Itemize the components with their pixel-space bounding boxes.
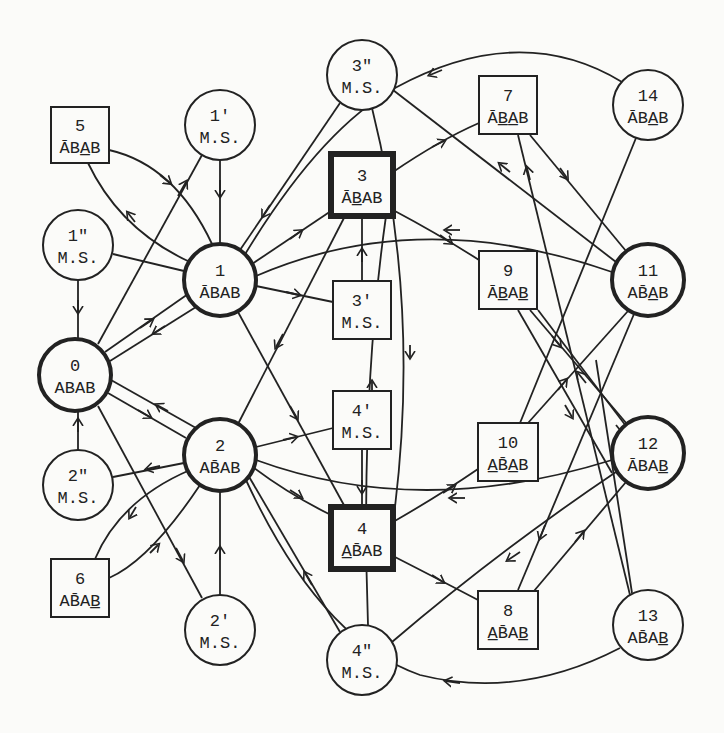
state-node-11: 11AB̄A̲B — [612, 244, 684, 316]
edge-14-3pp — [244, 52, 622, 256]
arrowhead-icon — [432, 575, 443, 582]
edge-11-1 — [256, 239, 612, 276]
node-state-label: ĀBA̲B — [628, 109, 669, 128]
node-state-label: ĀBAB̲ — [628, 457, 669, 476]
node-layer: 0ABAB1ĀBAB2AB̄AB1'M.S.1"M.S.2'M.S.2"M.S.… — [39, 40, 684, 695]
arrowhead-icon — [290, 406, 297, 418]
node-number-label: 13 — [638, 607, 658, 626]
arrowhead-icon — [500, 164, 510, 172]
node-number-label: 4' — [352, 402, 372, 421]
node-number-label: 4 — [357, 520, 367, 539]
node-number-label: 2 — [215, 437, 225, 456]
state-node-3pp: 3"M.S. — [327, 40, 397, 110]
node-number-label: 9 — [503, 262, 513, 281]
edge-0-2p — [98, 406, 202, 598]
state-node-7: 7ĀB̲A̲B — [479, 76, 537, 134]
node-state-label: ĀBA̲B — [60, 139, 101, 158]
state-node-1pp: 1"M.S. — [43, 210, 113, 280]
node-state-label: ABAB — [55, 379, 96, 398]
node-state-label: A̲B̄AB̲ — [488, 624, 529, 643]
node-state-label: M.S. — [200, 634, 241, 653]
edge-3-9 — [393, 210, 479, 260]
node-state-label: AB̄AB̲ — [60, 592, 101, 611]
node-number-label: 1" — [68, 227, 88, 246]
state-node-13: 13AB̄AB̲ — [613, 590, 683, 660]
state-node-4p: 4'M.S. — [333, 391, 391, 449]
edge-1-1pp — [113, 254, 184, 271]
node-number-label: 1' — [210, 107, 230, 126]
state-node-2pp: 2"M.S. — [43, 450, 113, 520]
state-node-4: 4A̲B̄AB — [331, 507, 393, 569]
node-number-label: 1 — [215, 262, 225, 281]
edge-13-2 — [246, 480, 620, 683]
state-node-0: 0ABAB — [39, 339, 111, 411]
state-node-14: 14ĀBA̲B — [613, 70, 683, 140]
arrowhead-icon — [160, 175, 170, 183]
node-number-label: 5 — [75, 117, 85, 136]
arrowhead-icon — [540, 525, 545, 538]
edge-2-2pp — [113, 463, 184, 477]
state-node-3p: 3'M.S. — [333, 281, 391, 339]
node-state-label: A̲B̄AB — [342, 542, 383, 561]
state-diagram-svg: 0ABAB1ĀBAB2AB̄AB1'M.S.1"M.S.2'M.S.2"M.S.… — [0, 0, 724, 733]
node-state-label: ĀB̲AB̲ — [488, 284, 529, 303]
node-number-label: 8 — [503, 602, 513, 621]
node-state-label: ĀB̲A̲B — [488, 109, 529, 128]
edge-4-10 — [393, 469, 478, 522]
arrowhead-icon — [263, 205, 270, 216]
node-state-label: M.S. — [200, 129, 241, 148]
state-node-10: 10A̲B̄A̲B — [478, 423, 538, 481]
node-number-label: 10 — [498, 434, 518, 453]
node-state-label: A̲B̄A̲B — [488, 456, 529, 475]
arrowhead-icon — [508, 552, 520, 560]
state-node-8: 8A̲B̄AB̲ — [478, 591, 538, 649]
node-state-label: M.S. — [342, 424, 383, 443]
node-state-label: AB̄AB — [200, 459, 241, 478]
arrowhead-icon — [575, 532, 583, 542]
node-number-label: 14 — [638, 87, 658, 106]
arrowhead-icon — [176, 548, 183, 561]
node-state-label: M.S. — [342, 79, 383, 98]
arrowhead-icon — [138, 410, 150, 417]
state-node-4pp: 4"M.S. — [327, 625, 397, 695]
arrowhead-icon — [290, 231, 301, 239]
node-state-label: M.S. — [58, 249, 99, 268]
arrowhead-icon — [432, 141, 444, 147]
node-state-label: M.S. — [58, 489, 99, 508]
node-state-label: M.S. — [342, 664, 383, 683]
node-number-label: 6 — [75, 570, 85, 589]
edge-6-2 — [109, 485, 200, 578]
node-state-label: ĀB̲AB — [342, 189, 383, 208]
node-number-label: 0 — [70, 357, 80, 376]
node-state-label: ĀBAB — [200, 284, 241, 303]
edge-layer — [78, 52, 636, 683]
state-node-5: 5ĀBA̲B — [51, 107, 109, 163]
node-number-label: 2' — [210, 612, 230, 631]
state-diagram-canvas: 0ABAB1ĀBAB2AB̄AB1'M.S.1"M.S.2'M.S.2"M.S.… — [0, 0, 724, 733]
arrowhead-icon — [140, 320, 152, 328]
node-state-label: AB̄AB̲ — [628, 629, 669, 648]
edge-12-2 — [256, 460, 612, 490]
node-state-label: AB̄A̲B — [628, 284, 669, 303]
edge-2-0 — [111, 380, 196, 428]
node-number-label: 3' — [352, 292, 372, 311]
node-number-label: 7 — [503, 87, 513, 106]
arrowhead-icon — [154, 326, 165, 333]
node-number-label: 3 — [357, 167, 367, 186]
state-node-9: 9ĀB̲AB̲ — [479, 251, 537, 309]
state-node-2: 2AB̄AB — [184, 419, 256, 491]
node-state-label: M.S. — [342, 314, 383, 333]
state-node-2p: 2'M.S. — [185, 595, 255, 665]
state-node-12: 12ĀBAB̲ — [612, 417, 684, 489]
node-number-label: 12 — [638, 435, 658, 454]
state-node-1: 1ĀBAB — [184, 244, 256, 316]
node-number-label: 11 — [638, 262, 658, 281]
arrowhead-icon — [565, 405, 572, 417]
state-node-3: 3ĀB̲AB — [331, 154, 393, 216]
node-number-label: 4" — [352, 642, 372, 661]
edge-3-2 — [238, 216, 345, 424]
node-number-label: 2" — [68, 467, 88, 486]
node-number-label: 3" — [352, 57, 372, 76]
state-node-6: 6AB̄AB̲ — [51, 559, 109, 617]
state-node-1p: 1'M.S. — [185, 90, 255, 160]
